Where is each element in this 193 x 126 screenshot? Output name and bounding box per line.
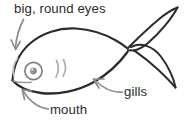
fish-drawing — [0, 0, 193, 126]
fish-eye — [25, 62, 42, 79]
fish-diagram: big, round eyes gills mouth — [0, 0, 193, 126]
gill-slit-marks — [56, 60, 65, 78]
mouth-line — [13, 81, 32, 83]
fish-body-outline — [13, 28, 128, 93]
forked-tail-fin — [128, 8, 178, 88]
eyes-arrow — [11, 20, 23, 50]
label-big-round-eyes: big, round eyes — [14, 2, 106, 15]
eye-pupil — [30, 68, 37, 75]
eye-highlight — [31, 69, 33, 71]
label-mouth: mouth — [50, 103, 87, 116]
label-gills: gills — [124, 85, 147, 98]
